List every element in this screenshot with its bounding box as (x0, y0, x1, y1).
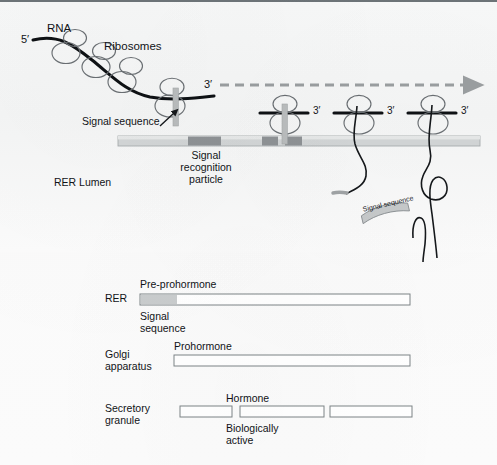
row-product-hormone: Hormone (226, 392, 269, 404)
three-prime-label-4: 3′ (461, 105, 468, 117)
row-sub-sequence: sequence (140, 322, 186, 334)
signal-sequence-label: Signal sequence (82, 115, 160, 127)
secretory-granule-bar-group (180, 406, 412, 417)
row-sub-active: active (226, 434, 253, 446)
nascent-signal-sequence (173, 88, 178, 126)
three-prime-label-1: 3′ (204, 78, 212, 91)
figure-page: 5′ RNA Ribosomes Signal sequence 3′ 3′ 3… (0, 0, 497, 465)
rer-bar-group (140, 294, 410, 305)
row-organelle-secretory-line1: Secretory (105, 402, 150, 414)
row-organelle-secretory-line2: granule (105, 414, 140, 426)
srp-segment (188, 137, 221, 146)
rna-label: RNA (47, 22, 71, 36)
row-organelle-golgi-line2: apparatus (105, 360, 152, 372)
five-prime-label: 5′ (21, 33, 29, 46)
bound-ribosome-stage-c (408, 95, 456, 262)
translocon-left (262, 137, 278, 146)
srp-label-line1: Signal (175, 149, 237, 161)
row-sub-signal: Signal (140, 310, 169, 322)
row-organelle-rer: RER (105, 292, 127, 304)
er-membrane (118, 136, 480, 146)
lower-panel-bars (140, 294, 412, 417)
srp-label-line2: recognition (163, 161, 249, 173)
cleaved-signal-tip (333, 192, 347, 193)
golgi-bar-group (174, 355, 410, 366)
ribosomes-label: Ribosomes (104, 40, 162, 54)
row-product-prohormone: Prohormone (174, 340, 232, 352)
row-product-pre-prohormone: Pre-prohormone (140, 278, 216, 290)
three-prime-label-2: 3′ (313, 105, 320, 117)
row-sub-biologically: Biologically (226, 422, 279, 434)
rer-lumen-label: RER Lumen (54, 176, 111, 188)
srp-label-line3: particle (169, 173, 243, 185)
three-prime-label-3: 3′ (387, 105, 394, 117)
rer-signal-sequence-segment (141, 295, 177, 304)
row-organelle-golgi-line1: Golgi (105, 348, 130, 360)
